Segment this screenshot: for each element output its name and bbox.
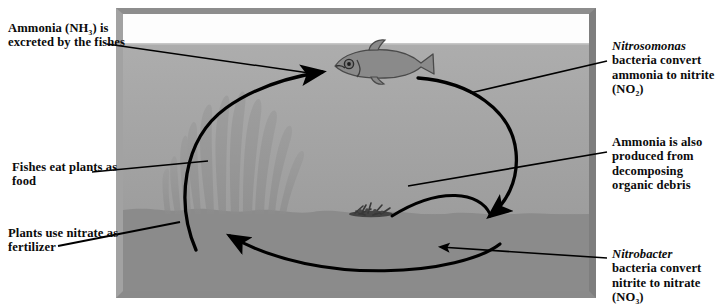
- caption-ammonia-debris: Ammonia is also produced from decomposin…: [612, 120, 718, 193]
- caption-ammonia-excreted: Ammonia (NH₃) is excreted by the fishes: [8, 6, 136, 50]
- aquatic-plants: [162, 91, 304, 214]
- caption-plants-use-nitrate: Plants use nitrate as fertilizer: [8, 211, 120, 255]
- tank-contents-svg: [123, 14, 589, 291]
- caption-nitrobacter: Nitrobacter bacteria convert nitrite to …: [612, 232, 718, 305]
- caption-nitrobacter-text: bacteria convert nitrite to nitrate (NO₃…: [612, 261, 701, 304]
- caption-fishes-eat-plants-text: Fishes eat plants as food: [12, 160, 117, 189]
- organic-debris: [349, 203, 393, 217]
- caption-plants-use-nitrate-text: Plants use nitrate as fertilizer: [8, 226, 118, 255]
- caption-nitrosomonas-species: Nitrosomonas: [612, 39, 686, 53]
- caption-nitrosomonas-text: bacteria convert ammonia to nitrite (NO₂…: [612, 53, 715, 96]
- gravel-edge: [123, 209, 589, 291]
- diagram-root: Ammonia (NH₃) is excreted by the fishes …: [0, 0, 718, 308]
- caption-nitrobacter-species: Nitrobacter: [612, 247, 673, 261]
- fish: [335, 40, 434, 84]
- caption-nitrosomonas: Nitrosomonas bacteria convert ammonia to…: [612, 24, 718, 97]
- caption-ammonia-excreted-text: Ammonia (NH₃) is excreted by the fishes: [8, 21, 125, 50]
- tank-interior: [123, 14, 589, 291]
- caption-fishes-eat-plants: Fishes eat plants as food: [12, 145, 138, 189]
- aquarium-tank: [116, 8, 596, 298]
- caption-ammonia-debris-text: Ammonia is also produced from decomposin…: [612, 135, 702, 193]
